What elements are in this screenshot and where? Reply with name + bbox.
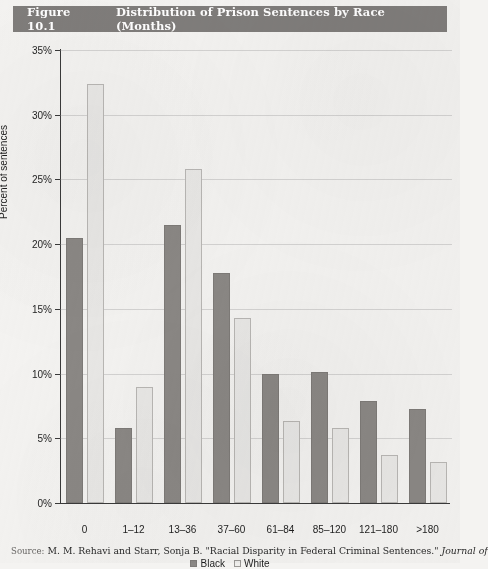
y-tick-mark (55, 503, 60, 504)
bar-black (66, 238, 83, 503)
figure-title-bar: Figure 10.1 Distribution of Prison Sente… (13, 6, 447, 32)
bar-white (234, 318, 251, 503)
y-tick-label: 0% (8, 498, 52, 509)
chart-legend: Black White (0, 558, 460, 569)
source-label: Source: (11, 546, 45, 556)
y-tick-label: 25% (8, 174, 52, 185)
chart-container: Percent of sentences 0%5%10%15%20%25%30%… (0, 34, 460, 534)
bar-white (381, 455, 398, 503)
bar-black (213, 273, 230, 503)
bar-group: 37–60 (207, 50, 256, 503)
bar-group: 0 (60, 50, 109, 503)
x-tick-label: >180 (416, 524, 439, 535)
source-note: Source: M. M. Rehavi and Starr, Sonja B.… (11, 545, 453, 556)
y-axis-label: Percent of sentences (0, 125, 9, 219)
y-tick-label: 35% (8, 45, 52, 56)
legend-item-black: Black (190, 558, 224, 569)
bar-black (262, 374, 279, 503)
y-tick-label: 20% (8, 239, 52, 250)
x-tick-label: 1–12 (122, 524, 144, 535)
legend-label-black: Black (200, 558, 224, 569)
legend-item-white: White (234, 558, 270, 569)
source-journal: Journal of (442, 545, 488, 556)
bar-groups: 01–1213–3637–6061–8485–120121–180>180 (60, 50, 452, 503)
bar-group: 61–84 (256, 50, 305, 503)
bar-black (164, 225, 181, 503)
bar-white (332, 428, 349, 503)
bar-group: 85–120 (305, 50, 354, 503)
x-axis-line (60, 503, 450, 504)
legend-label-white: White (244, 558, 270, 569)
bar-group: 13–36 (158, 50, 207, 503)
bar-white (430, 462, 447, 503)
x-tick-label: 37–60 (218, 524, 246, 535)
x-tick-label: 121–180 (359, 524, 398, 535)
figure-number: Figure 10.1 (27, 5, 103, 33)
bar-black (360, 401, 377, 503)
figure-title: Distribution of Prison Sentences by Race… (116, 5, 447, 33)
bar-black (409, 409, 426, 503)
legend-swatch-black-icon (190, 560, 197, 567)
bar-white (185, 169, 202, 503)
source-text: M. M. Rehavi and Starr, Sonja B. "Racial… (47, 545, 438, 556)
bar-group: >180 (403, 50, 452, 503)
y-tick-label: 10% (8, 368, 52, 379)
y-tick-label: 15% (8, 303, 52, 314)
x-tick-label: 0 (82, 524, 88, 535)
bar-black (115, 428, 132, 503)
y-tick-label: 5% (8, 433, 52, 444)
x-tick-label: 85–120 (313, 524, 346, 535)
y-tick-label: 30% (8, 109, 52, 120)
bar-black (311, 372, 328, 503)
x-tick-label: 13–36 (169, 524, 197, 535)
bar-group: 121–180 (354, 50, 403, 503)
bar-white (87, 84, 104, 503)
legend-swatch-white-icon (234, 560, 241, 567)
plot-area: 0%5%10%15%20%25%30%35% 01–1213–3637–6061… (60, 50, 452, 503)
bar-white (283, 421, 300, 503)
x-tick-label: 61–84 (267, 524, 295, 535)
bar-group: 1–12 (109, 50, 158, 503)
bar-white (136, 387, 153, 503)
